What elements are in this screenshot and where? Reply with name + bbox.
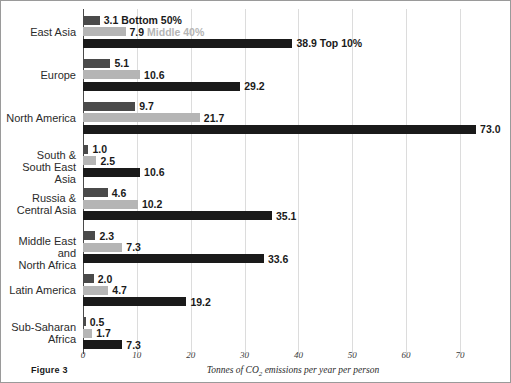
category-label-5: Middle East and North Africa: [1, 235, 76, 271]
x-tick-label-20: 20: [186, 350, 195, 360]
bar-value-label-7-0: 0.5: [86, 316, 105, 328]
bar-value-label-3-1: 2.5: [96, 155, 115, 167]
bar-value-label-4-2: 35.1: [272, 210, 296, 222]
legend-label-2: Top 10%: [317, 37, 362, 49]
bar-2-0[interactable]: [83, 102, 135, 111]
x-tick-label-70: 70: [455, 350, 464, 360]
legend-label-0: Bottom 50%: [118, 14, 182, 26]
category-label-1: Europe: [41, 69, 76, 81]
x-axis-title-prefix: Tonnes of CO: [207, 365, 259, 375]
bar-value-label-1-2: 29.2: [240, 80, 264, 92]
bar-row: 1.7: [83, 329, 503, 338]
bar-value-label-5-1: 7.3: [122, 241, 141, 253]
bar-value-label-5-0: 2.3: [95, 230, 114, 242]
bar-2-2[interactable]: [83, 125, 476, 134]
x-tick-label-40: 40: [294, 350, 303, 360]
bar-0-1[interactable]: [83, 27, 126, 36]
bar-value-label-3-2: 10.6: [140, 166, 164, 178]
bar-value-label-7-2: 7.3: [122, 339, 141, 351]
x-axis-title: Tonnes of CO2 emissions per year per per…: [207, 365, 379, 378]
bar-value-label-2-1: 21.7: [200, 112, 224, 124]
bar-row: 7.9 Middle 40%: [83, 27, 503, 36]
figure-container: 010203040506070 East AsiaEuropeNorth Ame…: [0, 0, 511, 383]
bar-row: 38.9 Top 10%: [83, 39, 503, 48]
x-tick-label-0: 0: [81, 350, 86, 360]
bar-row: 19.2: [83, 297, 503, 306]
x-tick-label-30: 30: [240, 350, 249, 360]
bar-row: 10.6: [83, 70, 503, 79]
bar-row: 2.3: [83, 231, 503, 240]
category-label-2: North America: [6, 112, 76, 124]
bar-7-2[interactable]: [83, 340, 122, 349]
bar-0-0[interactable]: [83, 16, 100, 25]
bar-row: 7.3: [83, 243, 503, 252]
bar-1-1[interactable]: [83, 70, 140, 79]
bar-4-1[interactable]: [83, 200, 138, 209]
bar-row: 3.1 Bottom 50%: [83, 16, 503, 25]
bar-4-2[interactable]: [83, 211, 272, 220]
figure-caption: Figure 3: [31, 365, 68, 375]
bar-5-1[interactable]: [83, 243, 122, 252]
legend-label-1: Middle 40%: [144, 26, 204, 38]
bar-value-label-0-0: 3.1 Bottom 50%: [100, 14, 182, 26]
bar-value-label-1-1: 10.6: [140, 69, 164, 81]
bar-3-1[interactable]: [83, 156, 96, 165]
bar-value-label-7-1: 1.7: [92, 327, 111, 339]
bar-value-label-2-0: 9.7: [135, 100, 154, 112]
bar-row: 5.1: [83, 59, 503, 68]
x-tick-label-10: 10: [132, 350, 141, 360]
bar-3-2[interactable]: [83, 168, 140, 177]
bar-5-2[interactable]: [83, 254, 264, 263]
x-tick-label-50: 50: [348, 350, 357, 360]
bar-value-label-4-0: 4.6: [108, 187, 127, 199]
bar-row: 33.6: [83, 254, 503, 263]
bar-value-label-6-1: 4.7: [108, 284, 127, 296]
bar-row: 0.5: [83, 317, 503, 326]
bar-row: 10.6: [83, 168, 503, 177]
bar-0-2[interactable]: [83, 39, 292, 48]
x-tick-label-60: 60: [402, 350, 411, 360]
bar-row: 9.7: [83, 102, 503, 111]
bar-row: 21.7: [83, 113, 503, 122]
bar-value-number: 38.9: [296, 37, 316, 49]
bar-value-label-0-1: 7.9 Middle 40%: [126, 26, 205, 38]
category-label-6: Latin America: [9, 284, 76, 296]
bar-row: 29.2: [83, 82, 503, 91]
bar-row: 10.2: [83, 200, 503, 209]
bar-row: 4.7: [83, 286, 503, 295]
category-label-0: East Asia: [30, 26, 76, 38]
bar-value-label-2-2: 73.0: [476, 123, 500, 135]
bar-4-0[interactable]: [83, 188, 108, 197]
bar-6-2[interactable]: [83, 297, 186, 306]
bar-value-label-6-2: 19.2: [186, 296, 210, 308]
category-label-4: Russia & Central Asia: [17, 192, 76, 216]
bar-row: 1.0: [83, 145, 503, 154]
bar-value-label-0-2: 38.9 Top 10%: [292, 37, 362, 49]
bar-1-0[interactable]: [83, 59, 110, 68]
bar-row: 7.3: [83, 340, 503, 349]
bar-value-label-6-0: 2.0: [94, 273, 113, 285]
category-label-3: South & South East Asia: [1, 149, 76, 185]
bar-row: 73.0: [83, 125, 503, 134]
bar-row: 35.1: [83, 211, 503, 220]
bar-value-number: 7.9: [130, 26, 145, 38]
bar-row: 4.6: [83, 188, 503, 197]
bar-7-1[interactable]: [83, 329, 92, 338]
category-label-7: Sub-Saharan Africa: [11, 321, 76, 345]
bar-row: 2.5: [83, 156, 503, 165]
x-axis-title-suffix: emissions per year per person: [262, 365, 379, 375]
bar-6-1[interactable]: [83, 286, 108, 295]
bar-value-label-5-2: 33.6: [264, 253, 288, 265]
bar-value-label-3-0: 1.0: [88, 143, 107, 155]
bar-5-0[interactable]: [83, 231, 95, 240]
bar-value-label-4-1: 10.2: [138, 198, 162, 210]
bar-2-1[interactable]: [83, 113, 200, 122]
bar-value-label-1-0: 5.1: [110, 57, 129, 69]
bar-6-0[interactable]: [83, 274, 94, 283]
bar-1-2[interactable]: [83, 82, 240, 91]
bar-row: 2.0: [83, 274, 503, 283]
bar-value-number: 3.1: [104, 14, 119, 26]
